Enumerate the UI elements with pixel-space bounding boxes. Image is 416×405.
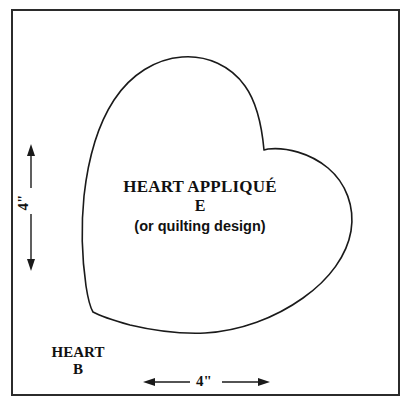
vertical-dimension-label: 4"	[15, 195, 32, 211]
pattern-diagram-page: HEART APPLIQUÉ E (or quilting design) HE…	[0, 0, 416, 405]
piece-name-line1: HEART	[52, 344, 105, 360]
applique-subtitle: (or quilting design)	[60, 219, 340, 235]
heart-applique-label: HEART APPLIQUÉ E (or quilting design)	[60, 178, 340, 234]
horizontal-dimension-label: 4"	[196, 373, 212, 390]
applique-piece-letter: E	[60, 197, 340, 214]
applique-title: HEART APPLIQUÉ	[60, 178, 340, 196]
piece-name-line2: B	[33, 361, 123, 378]
piece-name-label: HEART B	[33, 344, 123, 378]
